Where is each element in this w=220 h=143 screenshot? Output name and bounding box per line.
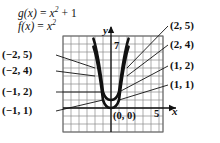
origin-label: (0, 0) (113, 110, 136, 121)
leader-lines-right (119, 26, 168, 100)
point-label-left-1: (−2, 5) (2, 48, 32, 60)
point-label-right-1: (2, 5) (170, 19, 194, 31)
point-label-left-3: (−1, 2) (2, 85, 32, 97)
y-axis-label: y (103, 24, 108, 36)
point-label-right-4: (1, 1) (170, 78, 194, 90)
point-label-right-2: (2, 4) (170, 38, 194, 50)
point-label-left-2: (−2, 4) (2, 64, 32, 76)
point-label-right-3: (1, 2) (170, 59, 194, 71)
point-label-left-4: (−1, 1) (2, 104, 32, 116)
y-tick-label-7: 7 (114, 40, 119, 51)
x-tick-label-5: 5 (154, 108, 159, 119)
x-axis-label: x (172, 105, 178, 117)
graph-figure: g(x) = x2 + 1 f(x) = x2 (0, 0, 220, 143)
